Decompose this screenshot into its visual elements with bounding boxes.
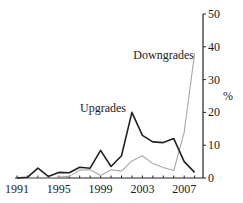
upgrades-label: Upgrades: [80, 101, 126, 115]
x-tick-label: 2007: [172, 182, 196, 196]
y-axis-unit-label: %: [223, 89, 233, 103]
upgrades-line: [17, 112, 195, 178]
y-tick-label: 20: [208, 105, 220, 119]
x-tick-label: 1995: [47, 182, 71, 196]
y-tick-label: 10: [208, 138, 220, 152]
x-tick-label: 2003: [130, 182, 154, 196]
x-tick-label: 1991: [5, 182, 29, 196]
y-tick-label: 50: [208, 7, 220, 21]
y-tick-label: 0: [208, 171, 214, 185]
y-tick-label: 40: [208, 40, 220, 54]
downgrades-label: Downgrades: [133, 48, 194, 62]
x-tick-label: 1999: [89, 182, 113, 196]
y-tick-label: 30: [208, 73, 220, 87]
line-chart: 1991199519992003200701020304050 Upgrades…: [0, 0, 243, 203]
